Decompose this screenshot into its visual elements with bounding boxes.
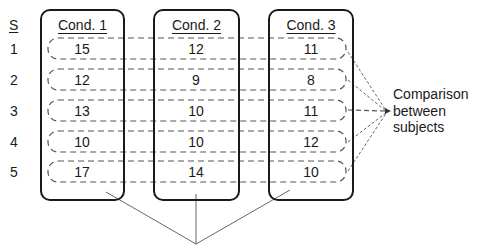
cell-c1-s5: 17 [62,164,102,180]
condition-title-1: Cond. 1 [42,17,123,33]
cell-c1-s4: 10 [62,134,102,150]
arrowhead-icon [385,108,391,114]
annotation-line-2: between [393,103,446,119]
annotation-line-1: Comparison [393,86,468,102]
cell-c3-s2: 8 [291,72,331,88]
cell-c3-s3: 11 [291,103,331,119]
cell-c2-s1: 12 [176,41,216,57]
cell-c3-s1: 11 [291,41,331,57]
subject-header: S [9,17,18,33]
subject-label-3: 3 [10,103,18,119]
subject-label-4: 4 [10,134,18,150]
cell-c2-s5: 14 [176,164,216,180]
cell-c1-s2: 12 [62,72,102,88]
cell-c2-s4: 10 [176,134,216,150]
cell-c1-s3: 13 [62,103,102,119]
condition-title-3: Cond. 3 [270,17,352,33]
condition-title-2: Cond. 2 [155,17,238,33]
annotation-line-3: subjects [393,119,444,135]
cell-c3-s4: 12 [291,134,331,150]
cell-c3-s5: 10 [291,164,331,180]
cell-c2-s3: 10 [176,103,216,119]
subject-label-2: 2 [10,72,18,88]
cell-c1-s1: 15 [62,41,102,57]
cell-c2-s2: 9 [176,72,216,88]
subject-label-5: 5 [10,164,18,180]
subject-label-1: 1 [10,41,18,57]
